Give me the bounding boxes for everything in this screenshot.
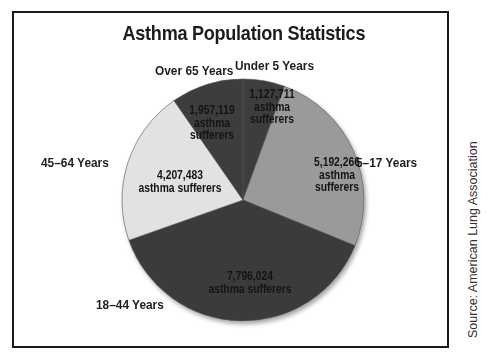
label-18-44: 18–44 Years xyxy=(96,297,164,312)
value-over-65: 1,957,119 asthma sufferers xyxy=(179,104,244,142)
value-under-5: 1,127,711 asthma sufferers xyxy=(239,88,304,126)
label-over-65: Over 65 Years xyxy=(155,63,233,78)
pie-chart xyxy=(0,0,488,360)
label-under-5: Under 5 Years xyxy=(235,58,314,73)
value-5-17: 5,192,266 asthma sufferers xyxy=(290,156,385,194)
value-45-64: 4,207,483 asthma sufferers xyxy=(124,169,236,194)
source-credit: Source: American Lung Association xyxy=(466,141,480,338)
value-18-44: 7,796,024 asthma sufferers xyxy=(194,270,306,295)
label-45-64: 45–64 Years xyxy=(41,155,109,170)
